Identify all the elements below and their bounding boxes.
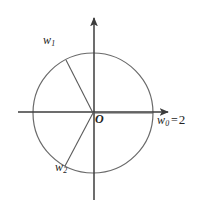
label-w2: w2 [55,161,67,173]
label-w0-equals-2: w0=2 [157,113,185,126]
figure-canvas [0,0,202,214]
w0-value: 2 [179,112,186,127]
equals-sign: = [169,113,179,127]
label-origin: O [95,113,104,125]
complex-plane-figure: w1 w2 O w0=2 [0,0,202,214]
radius-w2 [65,113,93,166]
radius-w1 [66,60,93,113]
label-w1: w1 [43,34,55,46]
